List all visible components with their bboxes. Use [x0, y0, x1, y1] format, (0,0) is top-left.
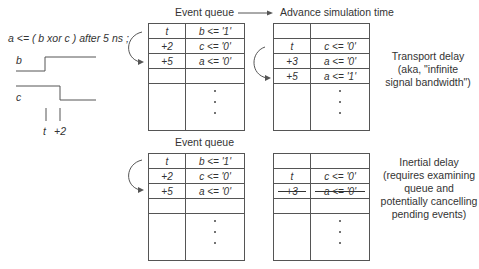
top-after-queue: tc <= '0' +3a <= '0' +5a <= '1': [273, 23, 370, 131]
curved-arrow-bottom-left: [129, 160, 142, 190]
time-mark-t: t: [43, 125, 46, 137]
table-row: tb <= '1': [149, 24, 245, 39]
table-row: +3a <= '0': [274, 54, 370, 69]
table-row: +5a <= '1': [274, 69, 370, 84]
table-row: [274, 154, 370, 169]
curved-arrow-top-left: [129, 32, 142, 62]
table-row-continuation: [149, 214, 245, 261]
transport-delay-note: Transport delay (aka, "infinite signal b…: [383, 50, 473, 89]
table-row: [149, 69, 245, 84]
table-row: tb <= '1': [149, 154, 245, 169]
inertial-delay-note: Inertial delay (requires examining queue…: [380, 156, 478, 221]
signal-c-label: c: [16, 91, 21, 103]
table-row: tc <= '0': [274, 169, 370, 184]
ellipsis-icon: [186, 84, 244, 114]
table-row-continuation: [274, 84, 370, 131]
advance-simulation-label: Advance simulation time: [280, 6, 394, 18]
bottom-before-queue: tb <= '1' +2c <= '0' +5a <= '0': [148, 153, 245, 261]
waveform-c: [16, 86, 96, 100]
signal-b-label: b: [16, 54, 22, 66]
table-row: +5a <= '0': [149, 184, 245, 199]
table-row: tc <= '0': [274, 39, 370, 54]
table-row: [149, 199, 245, 214]
table-row: +5a <= '0': [149, 54, 245, 69]
waveform-b: [16, 57, 96, 71]
top-before-queue: tb <= '1' +2c <= '0' +5a <= '0': [148, 23, 245, 131]
table-row: +2c <= '0': [149, 39, 245, 54]
ellipsis-icon: [186, 214, 244, 244]
table-row: +2c <= '0': [149, 169, 245, 184]
table-row: [274, 24, 370, 39]
time-mark-plus2: +2: [54, 125, 66, 137]
bottom-after-queue: tc <= '0' +3a <= '0': [273, 153, 370, 261]
ellipsis-icon: [311, 84, 369, 114]
curved-arrow-top-right: [254, 47, 267, 78]
table-row-cancelled: +3a <= '0': [274, 184, 370, 199]
vhdl-statement: a <= ( b xor c ) after 5 ns ;: [8, 32, 129, 44]
table-row-continuation: [149, 84, 245, 131]
table-row: [274, 199, 370, 214]
ellipsis-icon: [311, 214, 369, 244]
top-queue-title: Event queue: [175, 6, 234, 18]
table-row-continuation: [274, 214, 370, 261]
bottom-queue-title: Event queue: [175, 136, 234, 148]
